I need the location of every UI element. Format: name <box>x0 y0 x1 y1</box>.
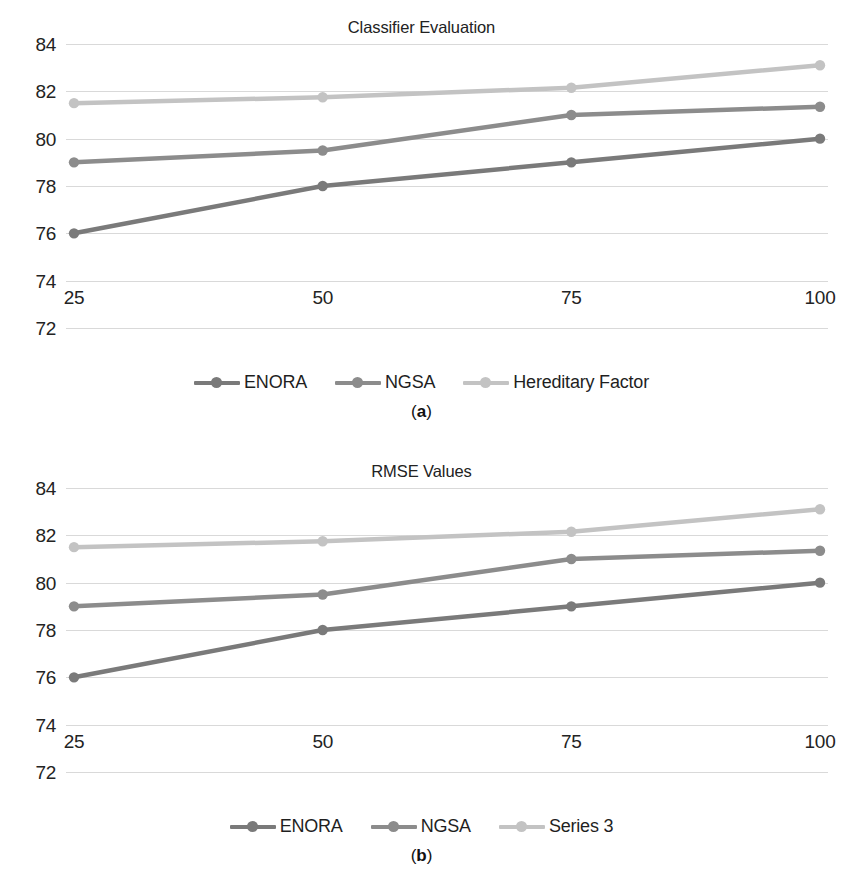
series-line <box>74 107 820 163</box>
legend-label: NGSA <box>421 816 471 837</box>
y-axis-a: 84828078767472 <box>0 44 66 328</box>
subfigure-label-b: (b) <box>0 846 843 866</box>
subfig-b-close: ) <box>427 846 433 865</box>
chart-title-b: RMSE Values <box>0 462 843 481</box>
y-tick-label: 80 <box>35 573 56 592</box>
x-tick-label: 50 <box>312 288 333 307</box>
legend-b: ENORANGSASeries 3 <box>0 816 843 837</box>
series-lines-b <box>66 488 828 772</box>
legend-swatch-icon <box>499 820 545 834</box>
series-line <box>74 551 820 607</box>
x-tick-label: 75 <box>561 732 582 751</box>
legend-label: ENORA <box>244 372 307 393</box>
subfigure-label-a: (a) <box>0 402 843 422</box>
x-tick-label: 75 <box>561 288 582 307</box>
y-tick-label: 78 <box>35 621 56 640</box>
data-point-marker <box>69 601 79 611</box>
y-tick-label: 76 <box>35 668 56 687</box>
data-point-marker <box>815 102 825 112</box>
series-line <box>74 509 820 547</box>
legend-marker-icon <box>480 377 491 388</box>
gridline <box>66 328 828 329</box>
legend-label: NGSA <box>385 372 435 393</box>
y-tick-label: 72 <box>35 319 56 338</box>
data-point-marker <box>566 527 576 537</box>
y-axis-b: 84828078767472 <box>0 488 66 772</box>
series-line <box>74 139 820 234</box>
data-point-marker <box>317 181 327 191</box>
x-tick-label: 50 <box>312 732 333 751</box>
y-tick-label: 84 <box>35 35 56 54</box>
x-axis-a: 255075100 <box>66 288 828 318</box>
figure-page: Classifier Evaluation 84828078767472 255… <box>0 0 843 888</box>
data-point-marker <box>317 589 327 599</box>
data-point-marker <box>815 546 825 556</box>
x-tick-label: 100 <box>805 288 836 307</box>
data-point-marker <box>69 672 79 682</box>
legend-item[interactable]: Hereditary Factor <box>463 372 649 393</box>
legend-label: ENORA <box>280 816 343 837</box>
data-point-marker <box>317 536 327 546</box>
data-point-marker <box>317 145 327 155</box>
data-point-marker <box>317 625 327 635</box>
data-point-marker <box>566 83 576 93</box>
x-axis-b: 255075100 <box>66 732 828 762</box>
y-tick-label: 72 <box>35 763 56 782</box>
data-point-marker <box>69 542 79 552</box>
y-tick-label: 82 <box>35 526 56 545</box>
legend-swatch-icon <box>230 820 276 834</box>
legend-item[interactable]: ENORA <box>194 372 307 393</box>
series-line <box>74 65 820 103</box>
y-tick-label: 74 <box>35 715 56 734</box>
legend-swatch-icon <box>335 376 381 390</box>
legend-swatch-icon <box>371 820 417 834</box>
series-line <box>74 583 820 678</box>
x-tick-label: 100 <box>805 732 836 751</box>
legend-item[interactable]: ENORA <box>230 816 343 837</box>
data-point-marker <box>566 110 576 120</box>
data-point-marker <box>69 228 79 238</box>
data-point-marker <box>566 601 576 611</box>
legend-marker-icon <box>516 821 527 832</box>
y-tick-label: 80 <box>35 129 56 148</box>
x-tick-label: 25 <box>64 288 85 307</box>
subfig-a-close: ) <box>426 402 432 421</box>
legend-label: Hereditary Factor <box>513 372 649 393</box>
y-tick-label: 78 <box>35 177 56 196</box>
y-tick-label: 74 <box>35 271 56 290</box>
legend-swatch-icon <box>463 376 509 390</box>
legend-marker-icon <box>247 821 258 832</box>
legend-swatch-icon <box>194 376 240 390</box>
data-point-marker <box>815 504 825 514</box>
chart-title-a: Classifier Evaluation <box>0 18 843 37</box>
legend-a: ENORANGSAHereditary Factor <box>0 372 843 393</box>
y-tick-label: 82 <box>35 82 56 101</box>
legend-marker-icon <box>211 377 222 388</box>
legend-item[interactable]: NGSA <box>371 816 471 837</box>
data-point-marker <box>566 157 576 167</box>
legend-item[interactable]: Series 3 <box>499 816 613 837</box>
plot-area-a <box>66 44 828 328</box>
subfig-b-letter: b <box>416 846 426 865</box>
data-point-marker <box>317 92 327 102</box>
data-point-marker <box>69 157 79 167</box>
plot-area-b <box>66 488 828 772</box>
data-point-marker <box>566 554 576 564</box>
y-tick-label: 76 <box>35 224 56 243</box>
y-tick-label: 84 <box>35 479 56 498</box>
data-point-marker <box>69 98 79 108</box>
data-point-marker <box>815 60 825 70</box>
gridline <box>66 772 828 773</box>
data-point-marker <box>815 577 825 587</box>
chart-panel-b: RMSE Values 84828078767472 255075100 ENO… <box>0 444 843 888</box>
x-tick-label: 25 <box>64 732 85 751</box>
chart-panel-a: Classifier Evaluation 84828078767472 255… <box>0 0 843 444</box>
data-point-marker <box>815 133 825 143</box>
series-lines-a <box>66 44 828 328</box>
subfig-a-letter: a <box>417 402 426 421</box>
legend-item[interactable]: NGSA <box>335 372 435 393</box>
legend-marker-icon <box>352 377 363 388</box>
legend-label: Series 3 <box>549 816 613 837</box>
legend-marker-icon <box>388 821 399 832</box>
